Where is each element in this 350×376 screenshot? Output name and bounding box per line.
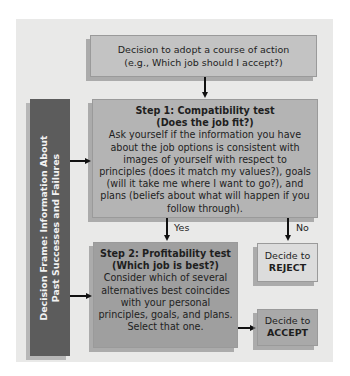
top-box-line2: (e.g., Which job should I accept?)	[91, 56, 316, 69]
decision-frame-line2: Past Successes and Failures	[50, 99, 62, 356]
step1-title: Step 1: Compatibility test	[99, 105, 311, 117]
arrow-top-to-step1	[204, 77, 206, 93]
accept-line2: ACCEPT	[258, 327, 317, 339]
decision-frame-bar: Decision Frame: Information About Past S…	[30, 99, 70, 356]
arrow-frame-to-step2	[70, 295, 87, 297]
arrow-head-icon	[85, 158, 91, 164]
top-box-line1: Decision to adopt a course of action	[91, 43, 316, 56]
step2-profitability-box: Step 2: Profitability test (Which job is…	[93, 242, 238, 348]
step2-body: Consider which of several alternatives b…	[98, 272, 233, 333]
reject-line2: REJECT	[258, 262, 317, 274]
decision-to-adopt-box: Decision to adopt a course of action (e.…	[90, 35, 317, 77]
decision-frame-text: Decision Frame: Information About Past S…	[38, 99, 62, 356]
arrow-frame-to-step1	[70, 160, 86, 162]
arrow-yes	[166, 218, 168, 236]
arrow-no	[287, 218, 289, 236]
arrow-head-icon	[86, 293, 92, 299]
arrow-head-icon	[250, 325, 256, 331]
decide-accept-box: Decide to ACCEPT	[257, 309, 318, 346]
reject-line1: Decide to	[258, 250, 317, 262]
step2-subtitle: (Which job is best?)	[98, 260, 233, 272]
arrow-head-icon	[202, 92, 208, 98]
step1-body: Ask yourself if the information you have…	[99, 129, 311, 214]
yes-label: Yes	[174, 222, 189, 233]
arrow-head-icon	[164, 235, 170, 241]
step1-compatibility-box: Step 1: Compatibility test (Does the job…	[92, 99, 318, 218]
step1-subtitle: (Does the job fit?)	[99, 117, 311, 129]
no-label: No	[296, 222, 309, 233]
accept-line1: Decide to	[258, 315, 317, 327]
decide-reject-box: Decide to REJECT	[257, 243, 318, 282]
decision-frame-line1: Decision Frame: Information About	[38, 99, 50, 356]
arrow-head-icon	[285, 235, 291, 241]
step2-title: Step 2: Profitability test	[98, 248, 233, 260]
